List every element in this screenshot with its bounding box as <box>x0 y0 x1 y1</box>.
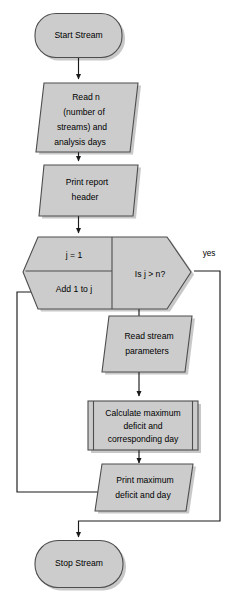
node-print-header: Print report header <box>39 165 138 216</box>
node-loop-init-label: j = 1 <box>65 250 83 260</box>
node-read-params-line1: Read stream <box>124 331 173 341</box>
node-read-inputs-line3: streams) and <box>57 122 107 132</box>
connector-loopback <box>17 292 104 492</box>
node-read-inputs-line1: Read n <box>72 92 100 102</box>
node-calculate-line3: corresponding day <box>108 434 179 444</box>
node-calculate-line2: deficit and <box>123 421 162 431</box>
node-print-results-line1: Print maximum <box>116 475 173 485</box>
node-read-params: Read stream parameters <box>102 316 192 372</box>
node-stop: Stop Stream <box>35 541 123 588</box>
flowchart-diagram: Start Stream Read n (number of streams) … <box>0 0 236 603</box>
node-loop-hexagon: j = 1 Add 1 to j Is j > n? <box>23 237 191 309</box>
node-loop-condition-label: Is j > n? <box>135 269 166 279</box>
node-read-inputs: Read n (number of streams) and analysis … <box>36 83 138 152</box>
node-read-inputs-line2: (number of <box>63 107 105 117</box>
node-print-results: Print maximum deficit and day <box>95 464 193 511</box>
node-print-results-line2: deficit and day <box>115 490 171 500</box>
node-print-header-line2: header <box>72 192 99 202</box>
node-calculate-line1: Calculate maximum <box>105 408 180 418</box>
node-calculate: Calculate maximum deficit and correspond… <box>88 401 198 450</box>
edge-label-yes: yes <box>203 249 216 258</box>
node-read-params-line2: parameters <box>125 346 168 356</box>
node-read-inputs-line4: analysis days <box>54 137 106 147</box>
node-stop-label: Stop Stream <box>55 558 103 568</box>
node-print-header-line1: Print report <box>66 177 109 187</box>
node-loop-increment-label: Add 1 to j <box>56 284 92 294</box>
node-start: Start Stream <box>35 14 122 58</box>
flowchart-canvas: Start Stream Read n (number of streams) … <box>0 0 236 603</box>
node-start-label: Start Stream <box>54 30 102 40</box>
